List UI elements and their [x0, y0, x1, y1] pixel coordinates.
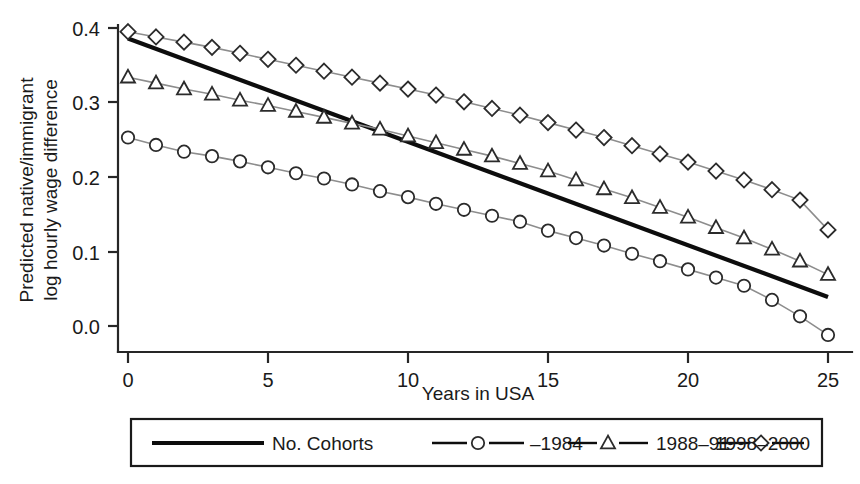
chart-figure: Predicted native/immigrant log hourly wa…	[0, 0, 860, 484]
y-tick-label-0.4: 0.4	[72, 18, 100, 40]
y-axis-title-line1: Predicted native/immigrant	[16, 77, 37, 303]
y-axis-ticks: 0.4 0.3 0.2 0.1 0.0	[72, 18, 118, 338]
series-3-marker-23	[764, 182, 779, 197]
series-1-marker-2	[178, 145, 190, 157]
x-axis-title: Years in USA	[422, 383, 535, 404]
series-3-marker-14	[512, 108, 527, 123]
legend-label-3: 1998–2000	[715, 433, 810, 454]
series-1-marker-0	[122, 131, 134, 143]
series-3-marker-8	[344, 70, 359, 85]
series-3-marker-0	[120, 24, 135, 39]
series-1-marker-14	[514, 216, 526, 228]
x-tick-label-5: 5	[262, 369, 273, 391]
series-1-marker-16	[570, 232, 582, 244]
series-1-marker-18	[626, 248, 638, 260]
series-line-3	[128, 32, 828, 230]
series-1	[122, 131, 834, 341]
series-2-marker-24	[793, 254, 807, 267]
series-1-marker-20	[682, 263, 694, 275]
series-1-marker-10	[402, 191, 414, 203]
series-1-marker-21	[710, 271, 722, 283]
series-3-marker-11	[428, 87, 443, 102]
series-3-marker-20	[680, 155, 695, 170]
y-axis-title: Predicted native/immigrant log hourly wa…	[16, 77, 61, 303]
legend-entry-3[interactable]: 1998–2000	[715, 433, 810, 454]
series-3-marker-21	[708, 163, 723, 178]
legend-marker-circle-icon	[472, 437, 484, 449]
series-3-marker-18	[624, 138, 639, 153]
series-1-marker-12	[458, 204, 470, 216]
series-1-marker-4	[234, 155, 246, 167]
series-0	[128, 38, 828, 297]
x-tick-label-20: 20	[677, 369, 699, 391]
series-3-marker-12	[456, 94, 471, 109]
series-2-marker-0	[121, 70, 135, 83]
series-line-0	[128, 38, 828, 297]
chart-canvas: Predicted native/immigrant log hourly wa…	[0, 0, 860, 484]
series-2-marker-25	[821, 267, 835, 280]
series-3	[120, 24, 835, 237]
series-1-marker-11	[430, 198, 442, 210]
series-3-marker-13	[484, 101, 499, 116]
series-layer	[120, 24, 835, 341]
series-3-marker-2	[176, 35, 191, 50]
x-tick-label-0: 0	[122, 369, 133, 391]
series-1-marker-1	[150, 139, 162, 151]
series-3-marker-4	[232, 46, 247, 61]
legend-label-0: No. Cohorts	[272, 433, 373, 454]
series-3-marker-15	[540, 115, 555, 130]
series-2-marker-23	[765, 242, 779, 255]
series-3-marker-5	[260, 52, 275, 67]
x-tick-label-25: 25	[817, 369, 839, 391]
series-1-marker-15	[542, 224, 554, 236]
series-1-marker-24	[794, 310, 806, 322]
y-tick-label-0.3: 0.3	[72, 92, 100, 114]
x-tick-label-15: 15	[537, 369, 559, 391]
series-1-marker-22	[738, 280, 750, 292]
series-3-marker-10	[400, 81, 415, 96]
y-axis-title-line2: log hourly wage difference	[40, 79, 61, 300]
series-3-marker-7	[316, 64, 331, 79]
series-1-marker-6	[290, 167, 302, 179]
y-tick-label-0.0: 0.0	[72, 316, 100, 338]
series-3-marker-17	[596, 130, 611, 145]
series-3-marker-1	[148, 29, 163, 44]
series-1-marker-8	[346, 178, 358, 190]
series-1-marker-13	[486, 210, 498, 222]
series-1-marker-19	[654, 255, 666, 267]
series-1-marker-5	[262, 161, 274, 173]
y-tick-label-0.1: 0.1	[72, 242, 100, 264]
series-3-marker-16	[568, 122, 583, 137]
y-tick-label-0.2: 0.2	[72, 167, 100, 189]
x-tick-label-10: 10	[397, 369, 419, 391]
series-1-marker-23	[766, 294, 778, 306]
series-3-marker-22	[736, 172, 751, 187]
series-1-marker-9	[374, 185, 386, 197]
series-1-marker-3	[206, 150, 218, 162]
series-3-marker-9	[372, 76, 387, 91]
series-3-marker-6	[288, 58, 303, 73]
series-1-marker-17	[598, 239, 610, 251]
series-line-2	[128, 77, 828, 274]
series-3-marker-19	[652, 146, 667, 161]
series-1-marker-7	[318, 172, 330, 184]
series-3-marker-3	[204, 40, 219, 55]
series-1-marker-25	[822, 329, 834, 341]
